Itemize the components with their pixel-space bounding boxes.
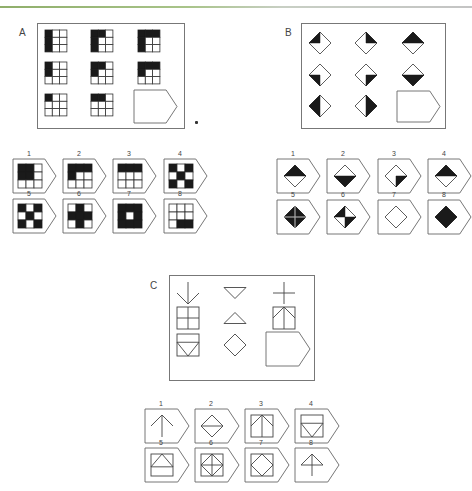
option-c-7[interactable]: 7 [245, 439, 289, 482]
option-number: 2 [209, 400, 213, 407]
option-number: 1 [159, 400, 163, 407]
matrix-cell-c-2 [224, 288, 246, 299]
option-number: 7 [259, 439, 263, 446]
option-number: 6 [209, 439, 213, 446]
option-number: 8 [309, 439, 313, 446]
option-c-5[interactable]: 5 [145, 439, 189, 482]
matrix-cell-c-5 [224, 313, 246, 324]
matrix-cell-c-7 [177, 334, 199, 356]
option-c-6[interactable]: 6 [195, 439, 239, 482]
option-c-4[interactable]: 4 [295, 400, 339, 443]
matrix-cell-c-3 [273, 282, 295, 304]
option-c-8[interactable]: 8 [295, 439, 339, 482]
matrix-cell-c-4 [177, 307, 199, 329]
option-number: 4 [309, 400, 313, 407]
puzzle-c-figures: 12345678 [0, 0, 472, 491]
matrix-cell-c-6 [273, 307, 295, 329]
option-c-3[interactable]: 3 [245, 400, 289, 443]
matrix-cell-c-9 [266, 332, 310, 366]
matrix-cell-c-1 [177, 282, 199, 304]
matrix-cell-c-8 [224, 334, 246, 356]
option-c-2[interactable]: 2 [195, 400, 239, 443]
option-number: 5 [159, 439, 163, 446]
option-number: 3 [259, 400, 263, 407]
option-c-1[interactable]: 1 [145, 400, 189, 443]
